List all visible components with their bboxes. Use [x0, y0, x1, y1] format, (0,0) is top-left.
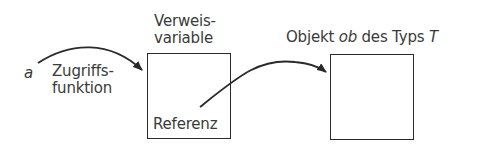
object-box — [330, 54, 414, 140]
object-title-prefix: Objekt — [286, 28, 339, 46]
access-function-label-line2: funktion — [52, 80, 112, 97]
object-title: Objekt ob des Typs T — [286, 29, 438, 46]
object-name: ob — [339, 28, 357, 46]
reference-variable-title-line1: Verweis- — [154, 13, 216, 30]
object-type: T — [429, 28, 438, 46]
object-title-middle: des Typs — [357, 28, 429, 46]
variable-a-label: a — [24, 65, 33, 82]
reference-label: Referenz — [153, 116, 217, 133]
access-function-label-line1: Zugriffs- — [52, 63, 114, 80]
reference-variable-box: Referenz — [147, 53, 231, 139]
reference-variable-title-line2: variable — [154, 30, 213, 47]
